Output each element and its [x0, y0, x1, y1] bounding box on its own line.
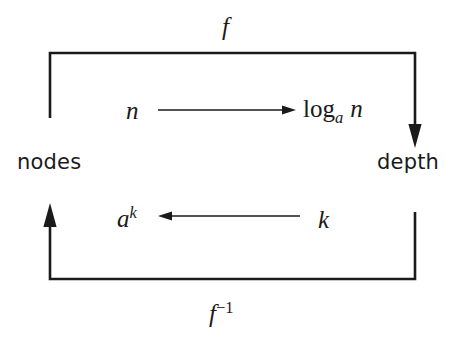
edge-f-inverse-arrowhead-icon — [43, 203, 56, 227]
edge-f-inverse-line — [50, 212, 415, 279]
edge-label-f-inverse-exponent: −1 — [216, 298, 234, 317]
edge-inverse-mapping-arrowhead-icon — [158, 211, 172, 220]
mapping-forward-source-n: n — [126, 98, 139, 123]
edge-f-path — [50, 53, 422, 148]
mapping-inverse-target-power: ak — [117, 205, 137, 231]
edge-f-arrowhead-icon — [408, 124, 421, 148]
edge-forward-mapping-arrowhead-icon — [282, 105, 296, 114]
mapping-inverse-target-exponent: k — [130, 203, 137, 222]
mapping-inverse-target-base: a — [117, 205, 130, 232]
mapping-forward-target-function: log — [303, 95, 335, 122]
endpoint-label-nodes: nodes — [17, 152, 81, 173]
edge-label-f: f — [222, 14, 229, 39]
edge-inverse-mapping — [158, 211, 300, 220]
mapping-inverse-source-k: k — [318, 207, 329, 232]
edge-label-f-inverse: f−1 — [209, 300, 234, 326]
edge-label-f-inverse-base: f — [209, 300, 216, 327]
edge-f-inverse-path — [43, 203, 415, 279]
endpoint-label-depth: depth — [377, 152, 439, 173]
diagram-canvas: f f−1 nodes depth n logan ak k — [0, 0, 467, 339]
mapping-forward-target-argument: n — [350, 95, 363, 122]
edge-forward-mapping — [158, 105, 296, 114]
mapping-forward-target-log: logan — [303, 96, 363, 127]
mapping-forward-target-subscript: a — [335, 108, 343, 127]
